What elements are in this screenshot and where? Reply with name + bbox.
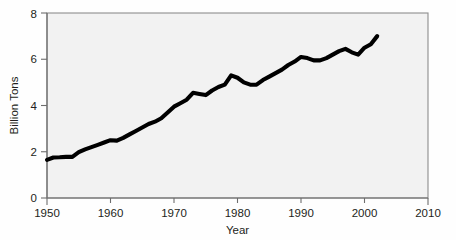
x-axis-tick-labels: 1950 1960 1970 1980 1990 2000 2010 [34, 207, 441, 219]
x-tick-label: 1960 [98, 207, 124, 219]
y-axis-tick-labels: 0 2 4 6 8 [31, 8, 38, 205]
y-tick-label: 0 [31, 192, 37, 204]
x-axis-title: Year [226, 224, 249, 236]
x-tick-label: 1980 [225, 207, 251, 219]
y-tick-label: 6 [31, 53, 37, 65]
y-tick-label: 2 [31, 146, 37, 158]
y-tick-label: 8 [31, 8, 37, 20]
chart-figure: 0 2 4 6 8 1950 1960 1970 1980 1990 2000 … [0, 0, 456, 240]
x-tick-label: 2000 [352, 207, 378, 219]
x-tick-label: 1950 [34, 207, 60, 219]
y-tick-label: 4 [31, 100, 38, 112]
x-tick-label: 1990 [288, 207, 314, 219]
plot-background [47, 13, 428, 198]
x-tick-label: 1970 [161, 207, 187, 219]
y-axis-title: Billion Tons [8, 76, 20, 134]
y-axis-ticks [41, 13, 47, 198]
x-axis-ticks [47, 198, 428, 205]
line-chart: 0 2 4 6 8 1950 1960 1970 1980 1990 2000 … [0, 0, 456, 240]
x-tick-label: 2010 [415, 207, 441, 219]
